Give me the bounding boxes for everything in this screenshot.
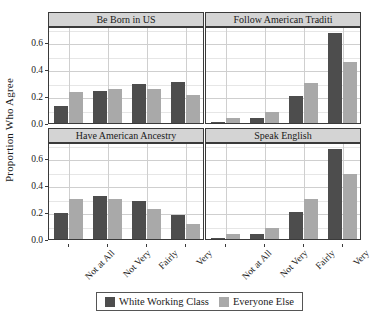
bar bbox=[226, 234, 240, 239]
legend-label: Everyone Else bbox=[233, 296, 294, 307]
x-tick-mark bbox=[303, 244, 304, 247]
plot-area bbox=[205, 27, 361, 124]
x-tick-label: Not Very bbox=[278, 248, 309, 279]
facet-title: Speak English bbox=[254, 131, 312, 141]
bar bbox=[147, 209, 161, 239]
bar bbox=[186, 95, 200, 123]
chart-legend: White Working ClassEveryone Else bbox=[96, 292, 303, 311]
bar-group bbox=[49, 144, 203, 239]
facet-strip-header: Speak English bbox=[205, 128, 361, 143]
bar bbox=[186, 224, 200, 239]
bar bbox=[147, 89, 161, 123]
bar bbox=[132, 201, 146, 239]
bar bbox=[328, 33, 342, 123]
bar bbox=[54, 106, 68, 124]
bar bbox=[93, 91, 107, 123]
x-tick-mark bbox=[68, 244, 69, 247]
legend-swatch-icon bbox=[105, 297, 115, 307]
x-tick-label: Not at All bbox=[82, 248, 116, 282]
bar bbox=[343, 62, 357, 123]
facet-strip-header: Be Born in US bbox=[48, 12, 204, 27]
bar bbox=[265, 228, 279, 239]
y-axis-title-text: Proportion Who Agree bbox=[3, 78, 15, 182]
x-tick-mark bbox=[107, 244, 108, 247]
bar bbox=[171, 82, 185, 123]
bar bbox=[265, 112, 279, 123]
facet-panel: Be Born in US bbox=[48, 12, 204, 124]
x-tick-mark bbox=[185, 244, 186, 247]
bar bbox=[211, 238, 225, 239]
bar bbox=[69, 199, 83, 239]
legend-label: White Working Class bbox=[119, 296, 209, 307]
plot-area bbox=[205, 143, 361, 240]
x-tick-label: Fairly bbox=[156, 248, 179, 271]
x-tick-label: Not at All bbox=[239, 248, 273, 282]
y-tick-label: 0.2 bbox=[31, 92, 48, 102]
bar bbox=[54, 213, 68, 239]
bar bbox=[93, 196, 107, 239]
y-axis-row-0: 0.00.20.40.6 bbox=[18, 12, 48, 124]
facet-strip-header: Follow American Traditi bbox=[205, 12, 361, 27]
bar bbox=[343, 174, 357, 239]
y-axis-row-1: 0.00.20.40.6 bbox=[18, 128, 48, 240]
bar bbox=[250, 118, 264, 123]
facet-strip-header: Have American Ancestry bbox=[48, 128, 204, 143]
facet-panel: Follow American Traditi bbox=[205, 12, 361, 124]
panel-grid: 0.00.20.40.60.00.20.40.6Be Born in USFol… bbox=[18, 12, 368, 244]
legend-swatch-icon bbox=[219, 297, 229, 307]
y-tick-label: 0.6 bbox=[31, 38, 48, 48]
bar-group bbox=[206, 144, 360, 239]
bar-group bbox=[206, 28, 360, 123]
x-tick-mark bbox=[342, 244, 343, 247]
plot-area bbox=[48, 143, 204, 240]
bar bbox=[69, 92, 83, 123]
facet-panel: Have American Ancestry bbox=[48, 128, 204, 240]
x-tick-label: Not Very bbox=[121, 248, 152, 279]
bar bbox=[328, 149, 342, 239]
bar bbox=[226, 118, 240, 123]
legend-item: Everyone Else bbox=[219, 296, 294, 307]
y-tick-label: 0.0 bbox=[31, 235, 48, 245]
bar bbox=[211, 122, 225, 123]
y-tick-label: 0.6 bbox=[31, 154, 48, 164]
bar bbox=[250, 234, 264, 239]
bar bbox=[289, 96, 303, 123]
x-axis-col-1: Not at AllNot VeryFairlyVery bbox=[205, 244, 361, 296]
facet-title: Have American Ancestry bbox=[76, 131, 177, 141]
facet-panel: Speak English bbox=[205, 128, 361, 240]
bar bbox=[108, 89, 122, 123]
bar bbox=[132, 84, 146, 123]
x-tick-label: Fairly bbox=[313, 248, 336, 271]
legend-item: White Working Class bbox=[105, 296, 209, 307]
facet-title: Be Born in US bbox=[96, 15, 155, 25]
plot-area bbox=[48, 27, 204, 124]
x-tick-label: Very bbox=[351, 248, 371, 268]
y-tick-label: 0.4 bbox=[31, 181, 48, 191]
x-tick-mark bbox=[146, 244, 147, 247]
x-axis-col-0: Not at AllNot VeryFairlyVery bbox=[48, 244, 204, 296]
x-tick-mark bbox=[225, 244, 226, 247]
bar bbox=[289, 212, 303, 239]
x-tick-mark bbox=[264, 244, 265, 247]
bar bbox=[304, 83, 318, 123]
bar bbox=[171, 215, 185, 239]
bar bbox=[304, 199, 318, 239]
bar-group bbox=[49, 28, 203, 123]
y-axis-title: Proportion Who Agree bbox=[0, 0, 18, 260]
y-tick-label: 0.2 bbox=[31, 208, 48, 218]
facet-title: Follow American Traditi bbox=[234, 15, 333, 25]
bar bbox=[108, 199, 122, 239]
y-tick-label: 0.4 bbox=[31, 65, 48, 75]
